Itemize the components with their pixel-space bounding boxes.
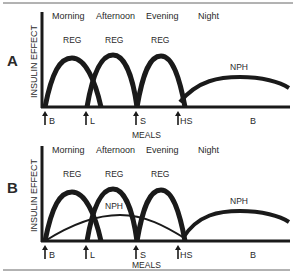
y-axis-label: INSULIN EFFECT bbox=[29, 24, 39, 98]
nph-curve-bedtime bbox=[180, 77, 289, 102]
meal-marker-breakfast: B bbox=[42, 111, 55, 126]
period-morning: Morning bbox=[52, 145, 85, 155]
period-afternoon: Afternoon bbox=[96, 11, 135, 21]
period-evening: Evening bbox=[146, 145, 179, 155]
nph-curve-morning bbox=[45, 215, 186, 241]
reg-curve-lunch bbox=[87, 55, 137, 107]
meal-label-hs: HS bbox=[180, 116, 193, 126]
meal-label-next-b: B bbox=[250, 250, 256, 260]
curve-label-reg-1: REG bbox=[63, 169, 81, 179]
meal-marker-lunch: L bbox=[83, 245, 95, 260]
meal-marker-supper: S bbox=[133, 111, 146, 126]
x-axis-label: MEALS bbox=[132, 260, 161, 270]
nph-curve-bedtime bbox=[183, 211, 289, 238]
curve-label-reg-3: REG bbox=[151, 35, 169, 45]
insulin-regimen-diagram: A INSULIN EFFECT Morning Afternoon Eveni… bbox=[0, 0, 297, 277]
x-axis-label: MEALS bbox=[132, 130, 161, 140]
meal-label-hs: HS bbox=[180, 250, 193, 260]
meal-label-l: L bbox=[90, 250, 95, 260]
curve-label-nph: NPH bbox=[230, 62, 248, 72]
curve-label-nph-day: NPH bbox=[105, 201, 123, 211]
meal-marker-bedtime: HS bbox=[175, 245, 193, 260]
period-afternoon: Afternoon bbox=[96, 145, 135, 155]
period-morning: Morning bbox=[52, 11, 85, 21]
meal-label-l: L bbox=[90, 116, 95, 126]
curve-label-reg-2: REG bbox=[105, 169, 123, 179]
reg-curve-supper bbox=[137, 56, 185, 107]
curve-label-reg-2: REG bbox=[105, 35, 123, 45]
meal-label-b: B bbox=[49, 250, 55, 260]
period-night: Night bbox=[198, 145, 220, 155]
period-night: Night bbox=[198, 11, 220, 21]
curve-label-reg-3: REG bbox=[151, 169, 169, 179]
panel-a: A INSULIN EFFECT Morning Afternoon Eveni… bbox=[7, 11, 290, 140]
meal-label-next-b: B bbox=[250, 116, 256, 126]
curve-label-reg-1: REG bbox=[63, 35, 81, 45]
y-axis-label: INSULIN EFFECT bbox=[29, 158, 39, 232]
period-evening: Evening bbox=[146, 11, 179, 21]
panel-letter: A bbox=[7, 52, 18, 69]
meal-marker-breakfast: B bbox=[42, 245, 55, 260]
meal-label-b: B bbox=[49, 116, 55, 126]
curve-label-nph-night: NPH bbox=[230, 196, 248, 206]
panel-letter: B bbox=[7, 179, 18, 196]
panel-b: B INSULIN EFFECT Morning Afternoon Eveni… bbox=[7, 145, 290, 270]
meal-marker-bedtime: HS bbox=[175, 111, 193, 126]
meal-label-s: S bbox=[140, 116, 146, 126]
meal-marker-supper: S bbox=[133, 245, 146, 260]
meal-marker-lunch: L bbox=[83, 111, 95, 126]
meal-label-s: S bbox=[140, 250, 146, 260]
